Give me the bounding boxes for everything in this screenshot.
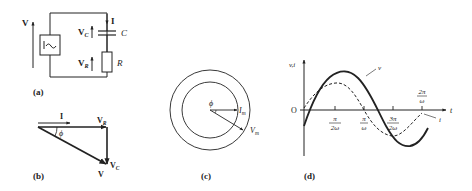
tick-label-pi-over-2w: π 2ω [329,115,341,132]
caption-c: (c) [201,171,211,181]
svg-text:3π: 3π [388,115,397,123]
label-phi: ϕ [59,129,63,138]
svg-text:π: π [333,115,337,123]
v-leader-line [366,69,376,76]
label-R: R [116,58,123,68]
svg-text:2ω: 2ω [331,124,340,132]
label-VR: VR [97,116,107,126]
capacitor-icon [98,24,116,52]
figure-canvas: V I C VC R VR [0,0,472,191]
panel-a-circuit: V I C VC R VR [22,13,128,97]
ac-source-icon [40,35,60,55]
caption-b: (b) [33,171,44,181]
phi-arc [55,127,57,136]
tick-label-2pi-over-w: 2π ω [417,88,427,105]
label-v: v [378,64,382,72]
panel-c-rotating-phasors: ϕ Im Vm (c) [170,70,259,181]
tick-label-pi-over-w: π ω [360,115,368,132]
panel-b-phasor-triangle: I VR VC V ϕ (b) [33,112,120,181]
label-C: C [121,28,128,38]
label-V: V [98,170,104,179]
svg-text:ω: ω [362,124,367,132]
label-I: I [111,16,115,26]
panel-d-waveforms: v,i t O π 2ω π ω 3π 2ω 2π ω [289,60,453,181]
label-VC: VC [78,27,90,38]
origin-label: O [291,106,297,115]
label-VC: VC [110,161,120,171]
i-leader-line [424,114,436,118]
resistor-icon [102,52,112,72]
label-phi: ϕ [209,99,213,108]
v-resultant-arrow [38,127,106,164]
label-i: i [439,116,441,124]
svg-text:π: π [362,115,366,123]
label-V: V [22,18,29,28]
label-I: I [60,112,63,121]
label-VR: VR [78,58,89,69]
caption-a: (a) [33,87,44,97]
svg-text:2π: 2π [418,88,426,96]
label-Im: Im [238,106,246,116]
x-axis-label: t [450,106,453,115]
caption-d: (d) [304,171,315,181]
y-axis-label: v,i [289,61,295,69]
voltage-curve-v [304,71,428,146]
svg-text:2ω: 2ω [389,124,398,132]
svg-text:ω: ω [420,97,425,105]
label-Vm: Vm [250,126,259,136]
